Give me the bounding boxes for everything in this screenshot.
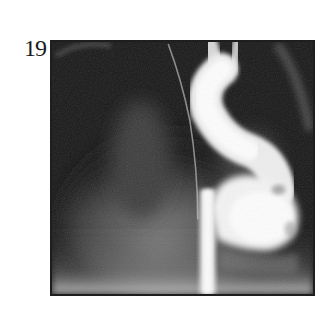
figure-label: 19 — [24, 36, 46, 60]
xray-image — [50, 40, 315, 296]
radiograph-graphic — [52, 42, 313, 294]
